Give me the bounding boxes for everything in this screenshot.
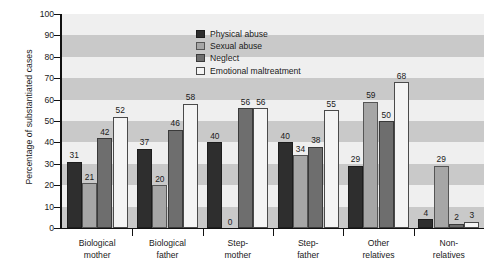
- x-axis-category-label: Biologicalmother: [62, 238, 132, 261]
- bar-value-label: 52: [109, 106, 132, 115]
- x-axis-category-labels: BiologicalmotherBiologicalfatherStep-mot…: [62, 238, 484, 270]
- bar: [348, 166, 363, 228]
- x-axis-category-label: Biologicalfather: [132, 238, 202, 261]
- legend-label: Emotional maltreatment: [210, 66, 301, 76]
- y-axis-tick-mark: [54, 14, 61, 15]
- bar-value-label: 40: [203, 132, 226, 141]
- bar: [82, 183, 97, 228]
- x-axis-tick-mark: [132, 229, 133, 236]
- y-axis-tick-mark: [54, 164, 61, 165]
- y-axis-tick-label: 60: [22, 95, 54, 104]
- x-axis-category-label: Step-mother: [203, 238, 273, 261]
- bar: [97, 138, 112, 228]
- bar: [168, 130, 183, 228]
- bar: [278, 142, 293, 228]
- bar: [253, 108, 268, 228]
- bar-value-label: 37: [133, 138, 156, 147]
- legend-item: Emotional maltreatment: [196, 65, 346, 77]
- bar-value-label: 56: [249, 98, 272, 107]
- bar-value-label: 68: [390, 72, 413, 81]
- x-axis-category-label: Step-father: [273, 238, 343, 261]
- y-axis-tick-label: 10: [22, 202, 54, 211]
- y-axis-tick-label: 20: [22, 181, 54, 190]
- bar-value-label: 58: [179, 93, 202, 102]
- y-axis-tick-mark: [54, 57, 61, 58]
- bar: [363, 102, 378, 228]
- y-axis-tick-label: 0: [22, 224, 54, 233]
- legend-label: Physical abuse: [210, 29, 268, 39]
- y-axis-tick-label: 80: [22, 52, 54, 61]
- bar: [379, 121, 394, 228]
- bar: [238, 108, 253, 228]
- bar: [207, 142, 222, 228]
- x-axis-tick-mark: [203, 229, 204, 236]
- legend-item: Physical abuse: [196, 28, 346, 40]
- x-axis-tick-mark: [414, 229, 415, 236]
- bar: [418, 219, 433, 228]
- y-axis-tick-mark: [54, 100, 61, 101]
- bar: [394, 82, 409, 228]
- bar: [183, 104, 198, 228]
- legend-swatch-icon: [196, 30, 205, 38]
- bar: [324, 110, 339, 228]
- y-axis-tick-label: 30: [22, 159, 54, 168]
- bar-chart: Percentage of substantiated cases 100908…: [0, 0, 489, 272]
- bar: [137, 149, 152, 228]
- bar-value-label: 59: [359, 91, 382, 100]
- bar-value-label: 29: [430, 155, 453, 164]
- legend-swatch-icon: [196, 67, 205, 75]
- y-axis-tick-mark: [54, 185, 61, 186]
- x-axis-tick-mark: [343, 229, 344, 236]
- y-axis-tick-mark: [54, 35, 61, 36]
- y-axis-tick-label: 40: [22, 138, 54, 147]
- legend-item: Sexual abuse: [196, 40, 346, 52]
- legend-label: Neglect: [210, 53, 239, 63]
- legend-item: Neglect: [196, 52, 346, 64]
- x-axis-category-label: Non-relatives: [414, 238, 484, 261]
- bar: [464, 222, 479, 228]
- y-axis-tick-mark: [54, 78, 61, 79]
- y-axis-tick-mark: [54, 121, 61, 122]
- bar-value-label: 31: [63, 151, 86, 160]
- y-axis-tick-label: 90: [22, 31, 54, 40]
- y-axis-tick-mark: [54, 207, 61, 208]
- legend-swatch-icon: [196, 54, 205, 62]
- y-axis-tick-label: 100: [22, 10, 54, 19]
- bar-value-label: 3: [460, 211, 483, 220]
- bar: [113, 117, 128, 228]
- bar: [152, 185, 167, 228]
- bar-value-label: 40: [274, 132, 297, 141]
- bar-value-label: 55: [320, 100, 343, 109]
- y-axis-tick-mark: [54, 228, 61, 229]
- chart-legend: Physical abuseSexual abuseNeglectEmotion…: [196, 28, 346, 77]
- legend-label: Sexual abuse: [210, 41, 262, 51]
- bar: [293, 155, 308, 228]
- legend-swatch-icon: [196, 42, 205, 50]
- bar: [449, 224, 464, 228]
- y-axis-tick-mark: [54, 142, 61, 143]
- y-axis-tick-label: 50: [22, 117, 54, 126]
- y-axis-tick-label: 70: [22, 74, 54, 83]
- y-axis-tick-labels: 1009080706050403020100: [22, 14, 54, 228]
- x-axis-tick-mark: [273, 229, 274, 236]
- bar: [308, 147, 323, 228]
- x-axis-category-label: Otherrelatives: [343, 238, 413, 261]
